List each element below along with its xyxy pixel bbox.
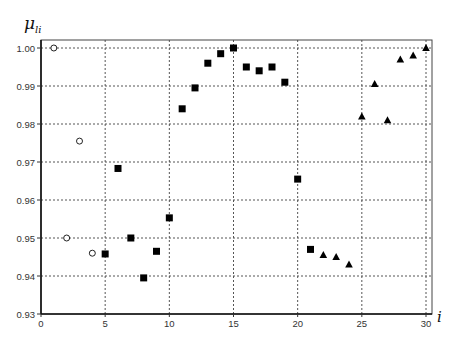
data-point-square	[307, 246, 314, 253]
x-tick-label: 5	[103, 318, 108, 329]
x-tick-label: 30	[421, 318, 432, 329]
data-point-square	[294, 176, 301, 183]
data-point-circle	[77, 138, 83, 144]
x-tick-label: 0	[38, 318, 43, 329]
data-point-square	[166, 214, 173, 221]
data-point-triangle	[371, 80, 379, 87]
data-point-square	[127, 235, 134, 242]
data-point-triangle	[332, 253, 340, 260]
x-tick-label: 10	[164, 318, 175, 329]
y-axis-label-sub: li	[35, 24, 41, 35]
data-point-square	[243, 64, 250, 71]
data-point-square	[179, 105, 186, 112]
data-point-triangle	[422, 44, 430, 51]
y-tick-label: 0.96	[17, 195, 36, 206]
y-tick-label: 0.98	[17, 119, 36, 130]
data-point-circle	[89, 250, 95, 256]
x-axis-ticks: 051015202530	[38, 314, 431, 329]
data-point-square	[204, 60, 211, 67]
data-point-square	[230, 45, 237, 52]
x-tick-label: 25	[357, 318, 368, 329]
x-tick-label: 15	[228, 318, 239, 329]
data-point-triangle	[345, 261, 353, 268]
data-point-triangle	[320, 251, 328, 258]
y-tick-label: 0.97	[17, 157, 36, 168]
y-axis-label-main: μ	[24, 13, 35, 33]
data-point-square	[217, 50, 224, 57]
data-point-triangle	[397, 55, 405, 62]
data-point-square	[192, 84, 199, 91]
data-point-triangle	[409, 52, 417, 59]
plot-area-border	[41, 40, 432, 314]
data-point-square	[140, 274, 147, 281]
data-point-circle	[51, 45, 57, 51]
grid-lines	[41, 40, 432, 314]
data-points	[51, 44, 430, 281]
y-tick-label: 0.99	[17, 81, 36, 92]
data-point-square	[281, 79, 288, 86]
x-tick-label: 20	[292, 318, 303, 329]
data-point-triangle	[384, 116, 392, 123]
data-point-square	[115, 165, 122, 172]
x-axis-label: i	[437, 308, 442, 326]
y-axis-ticks: 0.930.940.950.960.970.980.991.00	[17, 43, 42, 320]
y-tick-label: 1.00	[17, 43, 36, 54]
data-point-square	[153, 248, 160, 255]
scatter-chart: 0.930.940.950.960.970.980.991.00 0510152…	[0, 0, 454, 344]
data-point-square	[256, 67, 263, 74]
y-axis-label: μli	[24, 13, 41, 35]
data-point-square	[102, 250, 109, 257]
data-point-square	[269, 64, 276, 71]
data-point-triangle	[358, 112, 366, 119]
y-tick-label: 0.93	[17, 309, 36, 320]
y-tick-label: 0.95	[17, 233, 36, 244]
y-tick-label: 0.94	[17, 271, 36, 282]
data-point-circle	[64, 235, 70, 241]
